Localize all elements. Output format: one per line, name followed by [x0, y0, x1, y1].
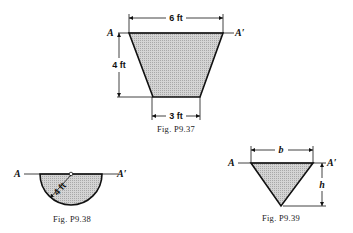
figure-caption: Fig. P9.39	[262, 213, 300, 223]
axis-label-a-prime: A′	[116, 168, 127, 179]
figure-caption: Fig. P9.38	[53, 214, 91, 224]
axis-label-a: A	[13, 168, 21, 179]
triangle-shape	[251, 163, 313, 206]
semicircle-shape	[40, 174, 102, 205]
figure-caption: Fig. P9.37	[157, 124, 195, 134]
figure-p9-38: A A′ 4 ft Fig. P9.38	[13, 168, 127, 224]
figure-p9-39: A A′ b h Fig. P9.39	[227, 144, 337, 223]
axis-label-a: A	[106, 27, 114, 38]
axis-label-a-prime: A′	[326, 157, 337, 168]
axis-label-a: A	[227, 157, 235, 168]
height-label: 4 ft	[112, 60, 126, 70]
height-label: h	[319, 179, 325, 190]
axis-label-a-prime: A′	[234, 27, 245, 38]
figures-canvas: A A′ 6 ft 4 ft 3 ft Fig. P9.37 A A′ 4 ft…	[0, 0, 353, 233]
base-label: b	[279, 144, 284, 155]
figure-p9-37: A A′ 6 ft 4 ft 3 ft Fig. P9.37	[106, 13, 245, 134]
top-width-label: 6 ft	[169, 13, 183, 23]
bottom-width-label: 3 ft	[169, 111, 183, 121]
trapezoid-shape	[129, 33, 223, 97]
